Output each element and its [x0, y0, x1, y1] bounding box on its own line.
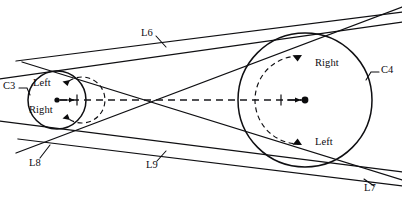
- c4-direction-label-upper: Right: [315, 58, 339, 69]
- line-label-l7: L7: [364, 183, 376, 194]
- c4-rotation-arrow-lower: [293, 139, 303, 146]
- leader-l8: [40, 145, 50, 158]
- c4-rotation-arrow-upper: [293, 55, 303, 62]
- c3-direction-label-upper: Left: [33, 78, 51, 89]
- diagram-vector-layer: [0, 0, 402, 209]
- c3-rotation-arrow-upper: [63, 80, 71, 86]
- c4-axis-arrowhead: [295, 97, 301, 102]
- tangent-line-l8: [16, 7, 402, 153]
- circle-c4-center-dot: [302, 97, 309, 104]
- tangent-line-l6: [16, 12, 402, 61]
- line-label-l8: L8: [29, 158, 41, 169]
- c4-direction-label-lower: Left: [315, 137, 333, 148]
- c3-axis-arrowhead: [69, 98, 74, 103]
- leader-l6: [156, 36, 166, 47]
- circle-label-c4: C4: [381, 65, 393, 76]
- circle-label-c3: C3: [3, 81, 15, 92]
- circle-c3-center-dot: [54, 97, 59, 102]
- line-label-l6: L6: [141, 28, 153, 39]
- geometric-diagram-canvas: C3 C4 Left Right Right Left L6 L7 L8 L9: [0, 0, 402, 209]
- c3-rotation-arrow-lower: [63, 114, 71, 120]
- line-label-l9: L9: [146, 160, 158, 171]
- c3-direction-label-lower: Right: [29, 105, 53, 116]
